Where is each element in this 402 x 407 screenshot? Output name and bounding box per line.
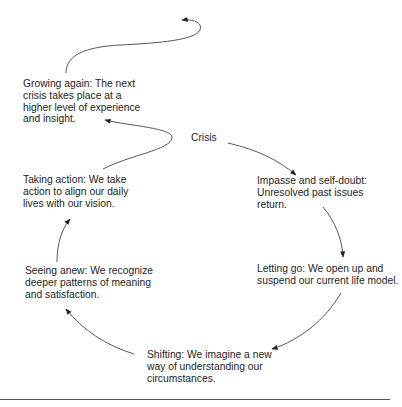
arrow-impasse-to-letting-go xyxy=(323,207,343,257)
arrow-growing-upward xyxy=(66,20,201,73)
stage-seeing-anew: Seeing anew: We recognize deeper pattern… xyxy=(25,265,153,300)
crisis-label: Crisis xyxy=(191,132,217,144)
stage-letting-go: Letting go: We open up and suspend our c… xyxy=(257,263,398,287)
stage-shifting: Shifting: We imagine a new way of unders… xyxy=(147,349,272,384)
arrow-seeing-to-taking-action xyxy=(57,219,70,262)
horizontal-rule xyxy=(0,399,390,400)
arrow-letting-go-to-shifting xyxy=(272,293,341,349)
arrow-crisis-to-impasse xyxy=(228,143,296,175)
arrow-taking-action-to-growing xyxy=(103,120,172,169)
stage-growing-again: Growing again: The next crisis takes pla… xyxy=(23,78,140,125)
stage-impasse: Impasse and self-doubt: Unresolved past … xyxy=(257,175,367,210)
stage-taking-action: Taking action: We take action to align o… xyxy=(23,174,128,209)
arrow-shifting-to-seeing-anew xyxy=(66,309,134,354)
